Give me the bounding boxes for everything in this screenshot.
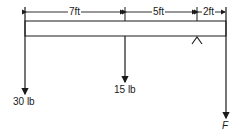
dimension-label-2ft: 2ft: [202, 7, 215, 17]
beam-diagram: [0, 0, 240, 131]
load-label-F: F: [222, 121, 228, 131]
dimension-label-5ft: 5ft: [152, 7, 165, 17]
load-label-30lb: 30 lb: [13, 97, 35, 107]
load-label-15lb: 15 lb: [114, 85, 136, 95]
dimension-label-7ft: 7ft: [68, 7, 81, 17]
support-icon: [192, 37, 202, 44]
beam: [25, 21, 226, 36]
